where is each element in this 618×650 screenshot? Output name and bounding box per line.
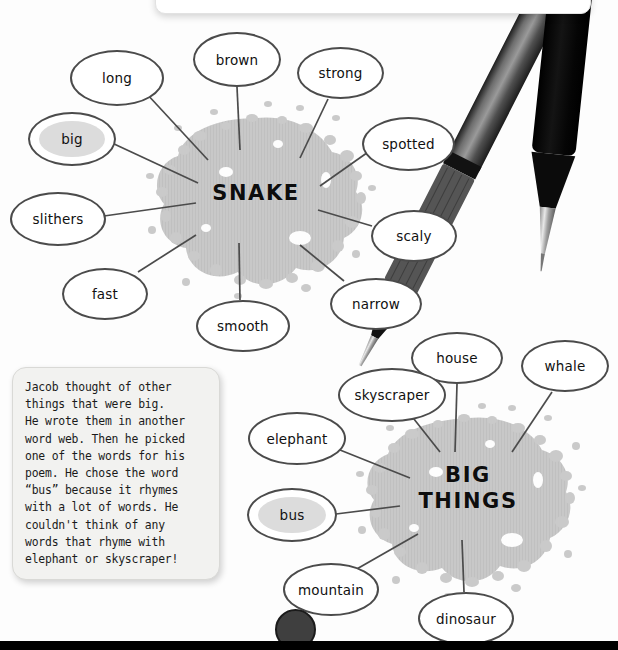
node-skyscraper[interactable]: skyscraper — [338, 368, 446, 422]
snake-connectors — [104, 87, 372, 300]
node-elephant[interactable]: elephant — [248, 412, 346, 465]
node-strong[interactable]: strong — [297, 47, 384, 99]
node-label: bus — [280, 507, 305, 523]
node-label: dinosaur — [436, 611, 496, 627]
node-scaly[interactable]: scaly — [371, 210, 457, 262]
top-cutoff-panel — [155, 0, 591, 14]
node-label: spotted — [382, 136, 435, 152]
node-label: elephant — [266, 431, 327, 447]
big-things-center-label: BIG THINGS — [398, 463, 538, 514]
node-label: scaly — [396, 228, 431, 244]
side-note-box: Jacob thought of other things that were … — [12, 367, 220, 580]
node-bus-highlighted[interactable]: bus — [247, 488, 337, 542]
big-things-line1: BIG — [398, 463, 538, 489]
bottom-black-bar — [0, 641, 618, 650]
node-dinosaur[interactable]: dinosaur — [418, 592, 514, 645]
node-narrow[interactable]: narrow — [330, 278, 422, 330]
node-whale[interactable]: whale — [521, 340, 609, 392]
node-brown[interactable]: brown — [193, 32, 281, 87]
node-big-highlighted[interactable]: big — [28, 112, 116, 166]
node-smooth[interactable]: smooth — [196, 300, 290, 352]
snake-splatter — [146, 101, 376, 299]
node-label: smooth — [217, 318, 269, 334]
node-label: house — [436, 350, 478, 366]
worksheet-page: long brown strong spotted scaly narrow s… — [0, 0, 618, 650]
node-label: whale — [545, 358, 586, 374]
node-spotted[interactable]: spotted — [362, 117, 455, 171]
node-slithers[interactable]: slithers — [10, 192, 106, 246]
snake-center-label: SNAKE — [186, 181, 326, 207]
node-long[interactable]: long — [70, 50, 164, 106]
side-note-text: Jacob thought of other things that were … — [25, 379, 209, 568]
node-label: slithers — [33, 211, 84, 227]
node-mountain[interactable]: mountain — [283, 563, 379, 616]
node-label: mountain — [298, 582, 364, 598]
big-things-splatter — [356, 403, 586, 599]
node-label: fast — [92, 286, 118, 302]
node-fast[interactable]: fast — [62, 268, 148, 320]
node-label: skyscraper — [354, 387, 429, 403]
node-label: narrow — [352, 296, 400, 312]
node-label: big — [61, 131, 83, 147]
big-things-line2: THINGS — [398, 489, 538, 515]
node-label: long — [102, 70, 132, 86]
node-label: strong — [318, 65, 362, 81]
node-label: brown — [216, 52, 259, 68]
